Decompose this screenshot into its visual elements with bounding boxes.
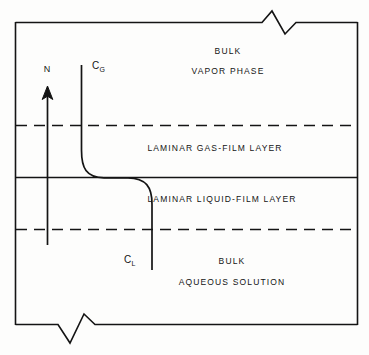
liquid-concentration-subscript: L: [132, 260, 136, 267]
concentration-profile-curve: [82, 65, 153, 270]
zone-label-bulk-aqueous-line1: BULK: [219, 256, 246, 266]
liquid-concentration-label: CL: [124, 254, 135, 267]
zone-label-laminar-liquid-film: LAMINAR LIQUID-FILM LAYER: [147, 194, 296, 204]
zone-label-laminar-gas-film: LAMINAR GAS-FILM LAYER: [147, 143, 282, 153]
zone-label-bulk-vapor-line2: VAPOR PHASE: [192, 66, 265, 76]
diagram-canvas: [0, 0, 369, 355]
gas-concentration-subscript: G: [100, 66, 105, 73]
box-bottom-border-with-break: [16, 314, 358, 343]
flux-arrow-label: N: [44, 64, 51, 74]
gas-concentration-symbol: C: [92, 60, 100, 71]
two-film-theory-diagram: BULK VAPOR PHASE LAMINAR GAS-FILM LAYER …: [0, 0, 369, 355]
liquid-concentration-symbol: C: [124, 254, 132, 265]
zone-label-bulk-vapor-line1: BULK: [215, 46, 242, 56]
box-top-border-with-break: [16, 11, 358, 34]
gas-concentration-label: CG: [92, 60, 105, 73]
zone-label-bulk-aqueous-line2: AQUEOUS SOLUTION: [179, 277, 286, 287]
